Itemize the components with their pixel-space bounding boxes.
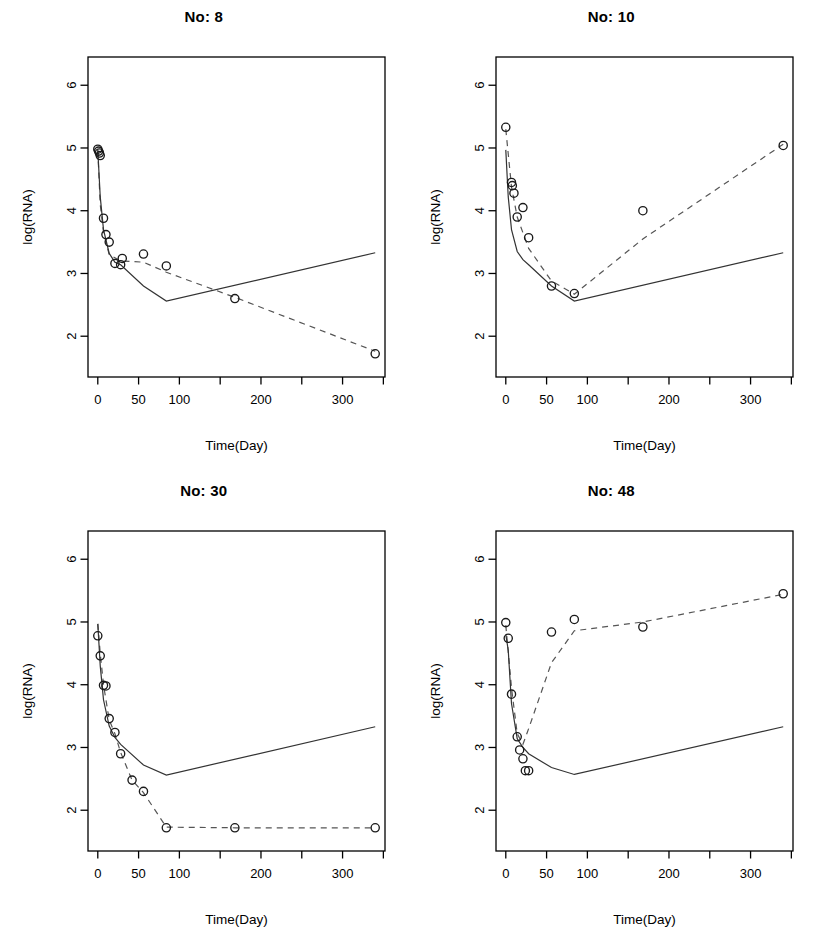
y-tick-label: 2	[472, 807, 487, 814]
series-line-individual-fit	[505, 129, 782, 294]
x-axis-label: Time(Day)	[205, 438, 268, 453]
data-point	[162, 262, 170, 270]
data-point	[128, 776, 136, 784]
data-point	[509, 189, 517, 197]
data-point	[371, 824, 379, 832]
x-tick-label: 0	[502, 866, 509, 881]
chart-panel: No: 1005010020030023456Time(Day)log(RNA)	[408, 0, 815, 474]
chart-panel: No: 4805010020030023456Time(Day)log(RNA)	[408, 474, 815, 948]
series-line-individual-fit	[98, 624, 375, 828]
y-tick-label: 6	[65, 82, 80, 89]
data-point	[99, 214, 107, 222]
x-tick-label: 300	[739, 866, 761, 881]
series-line-population-fit	[98, 624, 375, 775]
series-line-individual-fit	[505, 594, 782, 744]
y-axis-label: log(RNA)	[20, 189, 35, 245]
y-tick-label: 4	[65, 681, 80, 688]
y-tick-label: 4	[472, 207, 487, 214]
x-tick-label: 0	[94, 866, 101, 881]
series-line-individual-fit	[98, 150, 375, 351]
x-tick-label: 100	[169, 866, 191, 881]
y-tick-label: 6	[65, 556, 80, 563]
x-tick-label: 100	[169, 392, 191, 407]
y-tick-label: 2	[65, 333, 80, 340]
data-point	[638, 207, 646, 215]
x-tick-label: 50	[539, 866, 553, 881]
plot-frame	[88, 531, 385, 851]
data-point	[515, 746, 523, 754]
data-point	[638, 623, 646, 631]
data-point	[105, 715, 113, 723]
y-tick-label: 3	[472, 744, 487, 751]
data-point	[570, 615, 578, 623]
series-line-population-fit	[505, 635, 782, 775]
data-point	[139, 787, 147, 795]
chart-panel: No: 3005010020030023456Time(Day)log(RNA)	[0, 474, 408, 948]
y-tick-label: 4	[472, 681, 487, 688]
y-tick-label: 2	[65, 807, 80, 814]
x-tick-label: 200	[658, 392, 680, 407]
plot-frame	[496, 531, 793, 851]
data-point	[779, 590, 787, 598]
series-points-observed	[94, 145, 380, 358]
y-axis-label: log(RNA)	[428, 663, 443, 719]
x-axis-label: Time(Day)	[613, 438, 676, 453]
data-point	[139, 250, 147, 258]
series-points-observed	[94, 632, 380, 832]
y-tick-label: 2	[472, 333, 487, 340]
y-tick-label: 5	[65, 144, 80, 151]
x-tick-label: 100	[576, 392, 598, 407]
x-tick-label: 50	[539, 392, 553, 407]
series-line-population-fit	[98, 150, 375, 301]
x-tick-label: 0	[94, 392, 101, 407]
x-tick-label: 50	[131, 392, 145, 407]
data-point	[518, 755, 526, 763]
chart-panel: No: 805010020030023456Time(Day)log(RNA)	[0, 0, 408, 474]
series-line-population-fit	[505, 150, 782, 301]
x-tick-label: 200	[250, 392, 272, 407]
x-axis-label: Time(Day)	[613, 912, 676, 927]
y-tick-label: 5	[472, 144, 487, 151]
x-tick-label: 100	[576, 866, 598, 881]
series-points-observed	[501, 123, 787, 297]
figure-panel-grid: No: 805010020030023456Time(Day)log(RNA)N…	[0, 0, 815, 948]
data-point	[518, 203, 526, 211]
x-tick-label: 200	[250, 866, 272, 881]
y-tick-label: 5	[472, 618, 487, 625]
data-point	[524, 234, 532, 242]
y-tick-label: 4	[65, 207, 80, 214]
data-point	[547, 628, 555, 636]
x-tick-label: 300	[739, 392, 761, 407]
y-tick-label: 3	[472, 270, 487, 277]
x-tick-label: 300	[332, 392, 354, 407]
y-tick-label: 6	[472, 82, 487, 89]
y-tick-label: 3	[65, 744, 80, 751]
x-tick-label: 300	[332, 866, 354, 881]
plot-frame	[88, 57, 385, 377]
y-tick-label: 6	[472, 556, 487, 563]
y-axis-label: log(RNA)	[20, 663, 35, 719]
x-tick-label: 50	[131, 866, 145, 881]
y-tick-label: 3	[65, 270, 80, 277]
data-point	[504, 634, 512, 642]
x-tick-label: 200	[658, 866, 680, 881]
plot-frame	[496, 57, 793, 377]
x-axis-label: Time(Day)	[205, 912, 268, 927]
y-tick-label: 5	[65, 618, 80, 625]
x-tick-label: 0	[502, 392, 509, 407]
y-axis-label: log(RNA)	[428, 189, 443, 245]
